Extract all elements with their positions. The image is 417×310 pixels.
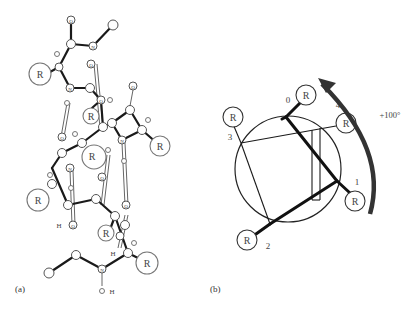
svg-text:R: R <box>343 118 350 129</box>
hydrogen-atom <box>106 148 111 153</box>
carbon-atom <box>44 268 54 278</box>
wheel-link-3-2 <box>241 143 270 224</box>
hydrogen-label: H <box>109 288 114 296</box>
alpha-carbon-atom <box>124 249 133 258</box>
svg-text:H: H <box>109 288 114 296</box>
nitrogen-atom: N <box>118 136 126 144</box>
wheel-spoke-0 <box>286 103 300 117</box>
r-group: R <box>27 189 49 211</box>
carbon-atom <box>78 139 87 148</box>
carbon-atom <box>86 84 95 93</box>
svg-text:H: H <box>110 250 115 258</box>
wheel-spoke-1 <box>337 181 350 193</box>
oxygen-atom: O <box>87 60 95 68</box>
wheel-tick-0 <box>282 117 286 119</box>
hydrogen-atom <box>100 289 105 294</box>
svg-text:O: O <box>99 99 103 104</box>
svg-text:R: R <box>157 141 164 152</box>
carbon-atom <box>126 106 135 115</box>
wheel-spoke-2 <box>256 224 270 234</box>
r-group: R <box>82 145 106 169</box>
side-chain-r-groups: R R R R R R R <box>27 63 170 274</box>
alpha-carbon-atom <box>99 123 108 132</box>
nitrogen-atom: N <box>89 42 97 50</box>
carbon-atom <box>92 195 101 204</box>
r-group: R <box>83 108 99 124</box>
svg-text:R: R <box>244 235 251 246</box>
alpha-carbon-atom <box>138 126 147 135</box>
alpha-carbon-atom <box>111 212 120 221</box>
svg-text:0: 0 <box>286 95 291 105</box>
wheel-position-0: R 0 <box>286 85 316 105</box>
alpha-carbon-atom <box>55 63 63 71</box>
wheel-position-1: R 1 <box>345 177 365 211</box>
svg-text:N: N <box>91 45 95 50</box>
carbon-atom <box>67 40 76 49</box>
r-group: R <box>98 225 114 241</box>
wheel-position-3: R 3 <box>223 107 243 142</box>
wheel-bond-1-2 <box>270 181 337 224</box>
rotation-label: +100° <box>380 110 401 120</box>
wheel-link-3-4 <box>241 126 336 143</box>
svg-text:H: H <box>56 222 61 230</box>
svg-text:N: N <box>100 268 104 273</box>
svg-text:O: O <box>100 176 104 181</box>
carbon-atom <box>64 201 73 210</box>
hydrogen-atom <box>48 173 53 178</box>
panel-a-caption: (a) <box>15 284 25 294</box>
carbon-atom <box>116 232 124 240</box>
svg-text:R: R <box>88 111 95 122</box>
hydrogen-atom <box>73 132 78 137</box>
svg-text:O: O <box>89 63 93 68</box>
oxygen-atom: O <box>69 221 77 229</box>
carbon-atom <box>108 20 118 30</box>
svg-text:R: R <box>144 258 151 269</box>
r-group: R <box>136 252 158 274</box>
r-group: R <box>150 136 170 156</box>
carbon-atom <box>121 221 130 230</box>
oxygen-atom: O <box>98 173 106 181</box>
svg-text:R: R <box>37 69 44 80</box>
helical-wheel: R 0 R 4 R 3 R 1 R 2 +100° (b) <box>210 78 400 294</box>
panel-b-caption: (b) <box>210 284 221 294</box>
rotation-arrow-icon <box>318 78 374 214</box>
wheel-position-2: R 2 <box>237 230 270 251</box>
nitrogen-atom: N <box>98 265 106 273</box>
figure-canvas: R R R R R R R O N O N O O <box>0 0 417 310</box>
carbon-atom <box>72 251 81 260</box>
svg-text:O: O <box>131 85 135 90</box>
r-group: R <box>29 63 51 85</box>
svg-text:N: N <box>68 87 72 92</box>
svg-text:1: 1 <box>355 177 360 187</box>
hydrogen-label: H <box>56 222 61 230</box>
hydrogen-atom <box>65 101 70 106</box>
svg-text:R: R <box>89 151 96 162</box>
svg-text:R: R <box>230 112 237 123</box>
svg-text:O: O <box>60 136 64 141</box>
svg-text:2: 2 <box>266 241 271 251</box>
alpha-helix-model: R R R R R R R O N O N O O <box>15 16 170 296</box>
hydrogen-atom <box>55 52 60 57</box>
oxygen-atom: O <box>67 16 75 24</box>
oxygen-atom: O <box>122 201 130 209</box>
wheel-circle <box>235 116 341 222</box>
oxygen-atom: O <box>58 133 66 141</box>
hydrogen-atom <box>132 241 137 246</box>
hydrogen-atom <box>122 159 127 164</box>
svg-text:O: O <box>71 224 75 229</box>
svg-text:R: R <box>303 90 310 101</box>
hydrogen-atom <box>146 118 151 123</box>
hydrogen-label: H <box>110 250 115 258</box>
svg-text:R: R <box>35 195 42 206</box>
carbon-atom <box>108 119 117 128</box>
nitrogen-atom: N <box>66 84 74 92</box>
svg-text:R: R <box>352 196 359 207</box>
svg-text:R: R <box>103 228 110 239</box>
svg-text:N: N <box>120 139 124 144</box>
hydrogen-atom <box>108 98 113 103</box>
svg-text:O: O <box>124 204 128 209</box>
svg-text:O: O <box>69 19 73 24</box>
hydrogen-atom <box>69 186 74 191</box>
oxygen-atom: O <box>129 82 137 90</box>
carbon-atom <box>58 149 67 158</box>
